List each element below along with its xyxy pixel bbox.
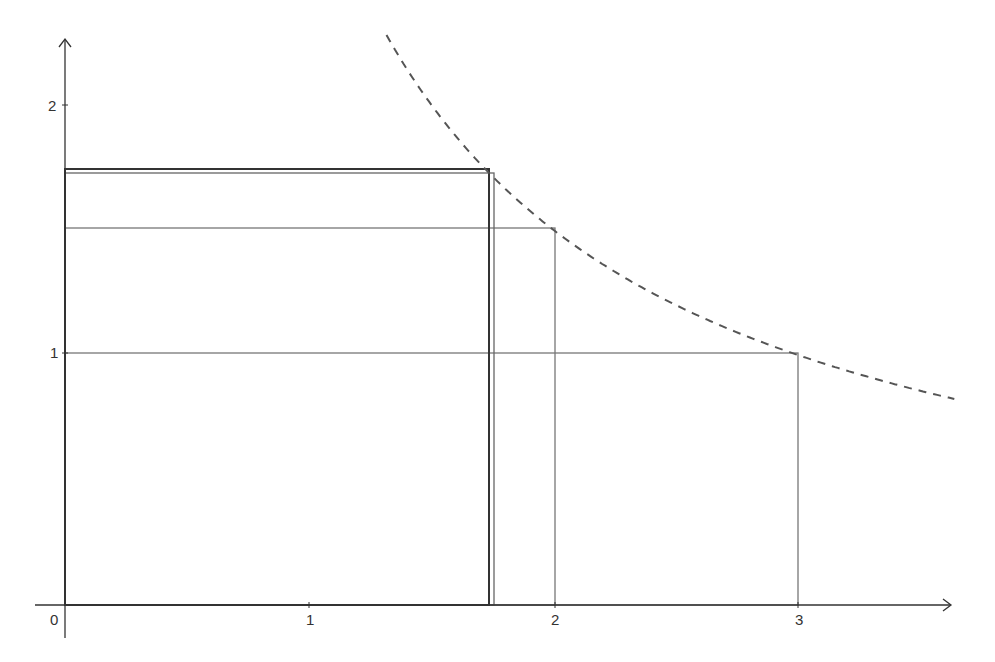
y-tick-label-2: 2 [48, 97, 56, 114]
axes-group: 0 1 2 3 1 2 [35, 39, 951, 638]
rectangles-group [65, 169, 798, 605]
hyperbola-curve [387, 35, 955, 399]
rect-1.75 [65, 173, 494, 605]
x-tick-label-3: 3 [795, 611, 803, 628]
rect-3-by-1 [65, 353, 798, 605]
x-tick-label-2: 2 [551, 611, 559, 628]
rect-2-by-1.5 [65, 228, 555, 605]
diagram-canvas: 0 1 2 3 1 2 [0, 0, 995, 662]
square-sqrt3 [65, 169, 489, 605]
x-tick-label-1: 1 [306, 611, 314, 628]
origin-label: 0 [50, 611, 58, 628]
y-tick-label-1: 1 [50, 344, 58, 361]
